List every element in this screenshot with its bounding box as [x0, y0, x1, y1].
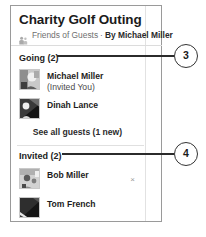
guest-name-text: Tom French [47, 199, 96, 209]
callout-leader-line-3 [57, 55, 174, 57]
friends-icon [19, 31, 28, 40]
guest-name: Bob Miller [47, 168, 89, 181]
avatar [19, 98, 40, 119]
subtitle-author: By Michael Miller [105, 30, 173, 40]
section-divider [17, 145, 144, 146]
section-heading-invited: Invited (2) [19, 151, 62, 161]
guest-name: Tom French [47, 197, 96, 210]
avatar [19, 69, 40, 90]
avatar [19, 197, 40, 218]
list-item[interactable]: Michael Miller (Invited You) [19, 69, 143, 93]
see-all-guests-link[interactable]: See all guests (1 new) [11, 127, 144, 137]
callout-leader-line-4 [62, 153, 174, 155]
subtitle-separator: · [98, 30, 105, 40]
guest-name: Michael Miller (Invited You) [47, 69, 133, 93]
guest-name-note: (Invited You) [47, 82, 95, 92]
guest-name-text: Michael Miller [47, 71, 103, 81]
panel-header: Charity Golf Outing Friends of Guests · … [11, 6, 161, 44]
guest-name-text: Dinah Lance [47, 100, 98, 110]
avatar [19, 168, 40, 189]
section-heading-going: Going (2) [19, 53, 59, 63]
close-icon[interactable]: × [130, 176, 135, 184]
subtitle-audience: Friends of Guests [32, 30, 98, 40]
callout-marker-3: 3 [174, 44, 198, 68]
header-divider [11, 45, 162, 46]
page-title: Charity Golf Outing [19, 12, 153, 27]
guest-name-text: Bob Miller [47, 170, 89, 180]
event-subtitle: Friends of Guests · By Michael Miller [19, 30, 153, 40]
guest-name: Dinah Lance [47, 98, 98, 111]
list-item[interactable]: Dinah Lance [19, 98, 143, 119]
event-guest-panel: Charity Golf Outing Friends of Guests · … [10, 5, 162, 222]
callout-marker-4: 4 [174, 142, 198, 166]
list-item[interactable]: Tom French [19, 197, 143, 218]
list-item[interactable]: Bob Miller × [19, 168, 143, 189]
